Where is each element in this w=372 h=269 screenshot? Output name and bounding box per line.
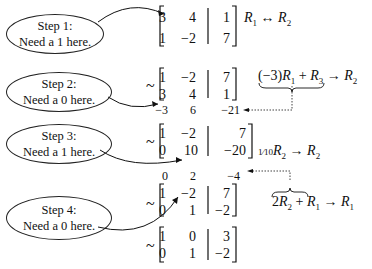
cell: 4 [166,87,196,103]
cell: 3 [200,229,230,245]
step-2-note: Need a 0 here. [7,92,111,108]
cell: 0 [136,143,166,159]
cell: −2 [166,31,196,47]
cell: 1 [200,10,230,26]
cell: −2 [200,246,230,262]
cell: 1 [136,31,166,47]
operation-4: 2R2 + R1 → R1 [272,194,354,215]
cell: 0 [166,229,196,245]
cell: −2 [166,186,196,202]
operation-3: 1⁄10R2 → R2 [258,143,320,164]
cell: 7 [216,126,246,142]
step-1-title: Step 1: [7,18,103,34]
cell: 1 [136,229,166,245]
step-4-note: Need a 0 here. [7,218,111,234]
cell: 1 [166,246,196,262]
cell: 7 [200,31,230,47]
helper-cell: 6 [166,102,196,118]
step-2-bubble: Step 2: Need a 0 here. [6,72,112,112]
cell: 7 [200,186,230,202]
helper-cell: −3 [138,102,168,118]
helper-cell: 0 [138,168,168,184]
step-1-note: Need a 1 here. [7,34,103,50]
operation-1: R1 ↔ R2 [244,10,291,31]
cell: 0 [136,203,166,219]
step-4-bubble: Step 4: Need a 0 here. [6,196,112,240]
cell: 4 [166,10,196,26]
operation-2: (−3)R1 + R3 → R2 [258,68,357,89]
cell: 1 [136,126,166,142]
cell: −2 [166,70,196,86]
cell: −20 [216,143,246,159]
cell: 1 [166,203,196,219]
helper-cell: −21 [210,102,240,118]
cell: 7 [200,70,230,86]
cell: 1 [136,70,166,86]
cell: 1 [136,186,166,202]
cell: −2 [166,126,196,142]
helper-cell: 2 [166,168,196,184]
cell: 0 [136,246,166,262]
helper-cell: −4 [210,168,240,184]
step-2-title: Step 2: [7,76,111,92]
cell: −2 [200,203,230,219]
step-1-bubble: Step 1: Need a 1 here. [6,14,104,54]
step-3-title: Step 3: [7,128,111,144]
cell: 10 [168,143,198,159]
step-3-bubble: Step 3: Need a 1 here. [6,124,112,164]
cell: 3 [136,87,166,103]
cell: 3 [136,10,166,26]
cell: 1 [200,87,230,103]
step-4-title: Step 4: [7,202,111,218]
step-3-note: Need a 1 here. [7,144,111,160]
